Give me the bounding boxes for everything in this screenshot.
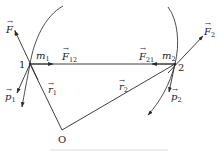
r1-label: → r1 — [48, 80, 57, 97]
svg-text:p1: p1 — [5, 91, 16, 104]
p2-label: → p2 — [171, 86, 182, 104]
p1-label: → p1 — [5, 86, 16, 104]
svg-text:F12: F12 — [61, 51, 77, 64]
r2-label: → r2 — [119, 77, 128, 94]
svg-text:F1: F1 — [5, 24, 17, 37]
F1-label: → F1 — [5, 18, 17, 37]
svg-text:r1: r1 — [48, 84, 57, 97]
m1-label: m1 — [36, 50, 50, 63]
F2-label: → F2 — [203, 20, 215, 39]
caption-placeholder-bar — [50, 149, 168, 151]
point-2-label: 2 — [178, 62, 184, 73]
m2-label: m2 — [162, 50, 176, 63]
F12-label: → F12 — [61, 45, 77, 64]
point-1-dot — [29, 63, 31, 65]
two-body-diagram: 1 2 O m1 m2 → F1 → F2 → F12 → F21 → p1 →… — [0, 0, 218, 154]
origin-label: O — [58, 134, 66, 145]
r2-vector-line — [62, 64, 175, 130]
point-2-dot — [174, 63, 176, 65]
svg-text:F21: F21 — [138, 51, 154, 64]
svg-text:p2: p2 — [171, 91, 182, 104]
point-1-label: 1 — [19, 59, 25, 70]
svg-text:r2: r2 — [119, 81, 128, 94]
svg-text:F2: F2 — [203, 26, 215, 39]
F21-label: → F21 — [138, 45, 154, 64]
